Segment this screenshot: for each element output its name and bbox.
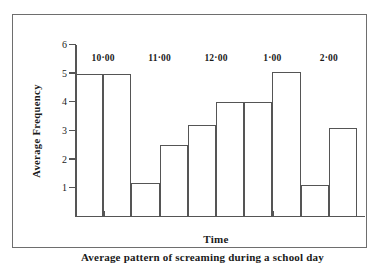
bar — [216, 102, 244, 217]
y-axis-label: Average Frequency — [29, 45, 43, 217]
y-tick-label: 4 — [62, 97, 67, 107]
bar — [103, 74, 131, 217]
y-tick-label: 3 — [62, 126, 67, 136]
chart-page: Average Frequency 123456 10·0011·0012·00… — [0, 0, 380, 272]
y-tick-label: 6 — [62, 40, 67, 50]
x-tick-label: 1·00 — [263, 53, 281, 63]
y-tick-label: 5 — [62, 69, 67, 79]
x-axis-label: Time — [75, 233, 357, 245]
bar — [329, 128, 357, 217]
plot-area: 123456 10·0011·0012·001·002·00 — [75, 45, 357, 217]
figure-frame: Average Frequency 123456 10·0011·0012·00… — [12, 14, 367, 248]
bar — [301, 185, 329, 217]
x-tick-label: 2·00 — [320, 53, 338, 63]
bar — [131, 183, 159, 217]
bar — [75, 74, 103, 217]
y-tick-label: 1 — [62, 183, 67, 193]
y-axis-label-text: Average Frequency — [31, 84, 42, 178]
bar — [244, 102, 272, 217]
bar — [272, 72, 300, 217]
x-tick-label: 12·00 — [204, 53, 227, 63]
y-tick-label: 2 — [62, 155, 67, 165]
bar — [160, 145, 188, 217]
x-tick-label: 10·00 — [92, 53, 115, 63]
bar — [188, 125, 216, 217]
figure-caption: Average pattern of screaming during a sc… — [25, 251, 380, 263]
x-tick-label: 11·00 — [148, 53, 171, 63]
y-tick — [69, 44, 76, 45]
